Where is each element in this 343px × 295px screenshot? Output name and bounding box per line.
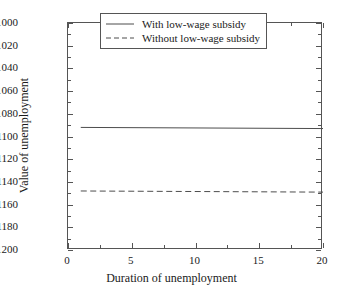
y-axis-title: Value of unemployment xyxy=(17,46,32,226)
chart-legend[interactable]: With low-wage subsidy Without low-wage s… xyxy=(100,13,267,49)
x-tick-label: 0 xyxy=(64,255,70,266)
y-tick-label: −1180 xyxy=(0,221,18,232)
x-axis-title: Duration of unemployment xyxy=(0,271,343,286)
series-line-with-subsidy xyxy=(81,127,323,128)
legend-solid-line-icon xyxy=(105,19,135,29)
x-tick-label: 10 xyxy=(189,255,200,266)
series-line-without-subsidy xyxy=(81,191,323,192)
chart-figure: −1000−1020−1040−1060−1080−1100−1120−1140… xyxy=(0,0,343,295)
data-lines xyxy=(68,23,323,250)
y-tick-label: −1140 xyxy=(0,175,18,186)
x-tick-label: 5 xyxy=(128,255,134,266)
y-tick-label: −1060 xyxy=(0,85,18,96)
y-tick-major xyxy=(316,250,321,251)
y-tick-major xyxy=(68,250,73,251)
legend-label-with-subsidy: With low-wage subsidy xyxy=(142,19,246,30)
y-tick-label: −1000 xyxy=(0,17,18,28)
y-tick-label: −1020 xyxy=(0,39,18,50)
y-tick-label: −1200 xyxy=(0,244,18,255)
y-tick-label: −1080 xyxy=(0,107,18,118)
legend-item-with-subsidy[interactable]: With low-wage subsidy xyxy=(105,17,260,31)
y-tick-label: −1100 xyxy=(0,130,18,141)
legend-item-without-subsidy[interactable]: Without low-wage subsidy xyxy=(105,31,260,45)
legend-label-without-subsidy: Without low-wage subsidy xyxy=(142,33,260,44)
x-tick-major xyxy=(323,243,324,248)
plot-area xyxy=(67,22,322,249)
y-tick-label: −1040 xyxy=(0,62,18,73)
legend-dashed-line-icon xyxy=(105,33,135,43)
x-tick-major xyxy=(323,23,324,28)
y-tick-label: −1120 xyxy=(0,153,18,164)
x-tick-label: 15 xyxy=(253,255,264,266)
y-tick-label: −1160 xyxy=(0,198,18,209)
x-tick-label: 20 xyxy=(317,255,328,266)
